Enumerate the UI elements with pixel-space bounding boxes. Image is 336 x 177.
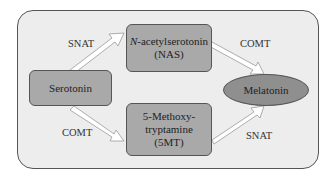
- node-nas-abbrev: (NAS): [154, 48, 183, 60]
- node-nas: N-acetylserotonin (NAS): [126, 24, 212, 72]
- node-5mt-line3: (5MT): [154, 136, 183, 148]
- enzyme-label-comt-top: COMT: [240, 38, 270, 49]
- enzyme-label-snat-top: SNAT: [68, 38, 94, 49]
- node-nas-rest: -acetylserotonin: [137, 35, 208, 47]
- node-serotonin: Serotonin: [29, 70, 112, 106]
- node-nas-text: N-acetylserotonin (NAS): [130, 35, 208, 61]
- node-5mt-text: 5-Methoxy- tryptamine (5MT): [143, 110, 196, 149]
- enzyme-label-snat-bottom: SNAT: [246, 130, 272, 141]
- node-melatonin-label: Melatonin: [243, 84, 288, 97]
- node-5mt-line1: 5-Methoxy-: [143, 110, 196, 122]
- node-5mt-line2: tryptamine: [145, 123, 193, 135]
- node-serotonin-label: Serotonin: [49, 82, 92, 95]
- node-melatonin: Melatonin: [223, 74, 309, 106]
- enzyme-label-comt-bottom: COMT: [62, 127, 92, 138]
- node-5mt: 5-Methoxy- tryptamine (5MT): [126, 103, 212, 156]
